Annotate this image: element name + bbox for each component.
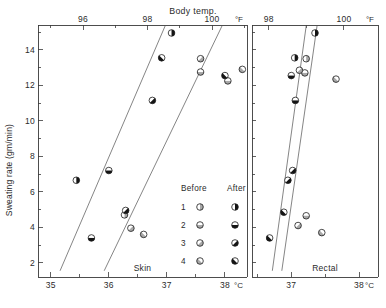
data-point-after-subject-2 [286,72,297,81]
marker-fill [286,76,297,81]
legend-swatch-before-4 [195,256,206,267]
y-ticklabel: 12 [25,80,35,90]
legend-subject-number: 2 [181,221,186,230]
data-point-after-subject-1 [312,28,321,39]
marker-fill [230,225,241,230]
data-point-after-subject-4 [264,233,275,244]
x-ticklabel-f: 96 [78,14,88,24]
marker-fill [104,171,115,176]
marker-fill [195,72,206,77]
data-point-before-subject-2 [195,69,206,78]
x-ticklabel-f: 100 [336,14,351,24]
regression-line-after [60,26,165,271]
regression-line-before [104,26,222,271]
data-point-before-subject-3 [126,223,137,234]
data-point-after-subject-2 [86,235,97,244]
panel-label-skin: Skin [134,263,152,273]
legend-subject-number: 1 [181,203,186,212]
x-ticklabel-c: 38 [220,280,230,290]
legend-swatch-after-4 [230,256,241,267]
data-point-after-subject-1 [291,53,300,64]
marker-fill [200,202,205,213]
data-point-before-subject-1 [303,53,312,64]
data-point-after-subject-3 [287,165,298,176]
panel-rectal: 98100°F3738°CRectal [252,14,378,290]
x-ticklabel-f: 98 [264,14,274,24]
marker-fill [306,53,311,64]
legend-subject-number: 3 [181,239,186,248]
x-unit-celsius: °C [234,281,243,290]
y-ticklabel: 2 [30,258,35,268]
panel-label-rectal: Rectal [312,263,338,273]
legend-row: 3 [181,238,240,249]
legend-row: 1 [181,202,240,213]
marker-fill [86,238,97,243]
panel-frame [38,25,247,277]
panel-skin: 9698100°F35363738°C2468101214Skin [25,14,248,290]
marker-fill [172,28,177,39]
legend: Before After 1234 [181,184,246,266]
y-axis-label: Sweating rate (gm/min) [4,124,14,216]
marker-fill [76,175,81,186]
data-point-after-subject-4 [156,53,167,64]
marker-fill [223,81,234,86]
data-point-after-subject-2 [104,167,115,176]
marker-fill [295,53,300,64]
y-ticklabel: 14 [25,45,35,55]
legend-after-header: After [227,184,246,193]
data-point-before-subject-3 [293,220,304,231]
data-point-after-subject-3 [147,95,158,106]
x-ticklabel-c: 36 [104,280,114,290]
legend-swatch-before-2 [195,222,206,231]
data-point-before-subject-4 [237,64,248,75]
data-point-before-subject-4 [138,229,149,240]
x-unit-celsius: °C [365,281,374,290]
legend-swatch-before-3 [195,238,206,249]
x-ticklabel-f: 100 [204,14,219,24]
x-ticklabel-c: 38 [354,280,364,290]
regression-line-after [272,26,306,271]
y-ticklabel: 10 [25,116,35,126]
legend-swatch-after-2 [230,222,241,231]
x-ticklabel-f: 98 [143,14,153,24]
data-point-before-subject-2 [301,212,312,221]
y-ticklabel: 6 [30,187,35,197]
data-point-after-subject-1 [73,175,82,186]
scatter-plot-svg: Body temp. Sweating rate (gm/min) 969810… [0,0,386,308]
marker-fill [300,73,311,78]
data-point-before-subject-4 [316,227,327,238]
marker-fill [235,202,240,213]
x-unit-fahrenheit: °F [235,15,243,24]
marker-fill [301,216,312,221]
x-ticklabel-c: 37 [286,280,296,290]
legend-subject-number: 4 [181,257,186,266]
data-point-after-subject-1 [168,28,177,39]
regression-line-before [282,26,317,271]
legend-row: 2 [181,221,240,230]
y-ticklabel: 4 [30,222,35,232]
marker-fill [195,225,206,230]
y-ticklabel: 8 [30,151,35,161]
legend-row: 4 [181,256,240,267]
legend-swatch-after-3 [230,238,241,249]
data-point-before-subject-4 [331,74,342,85]
x-ticklabel-c: 37 [162,280,172,290]
chart-figure: Body temp. Sweating rate (gm/min) 969810… [0,0,386,308]
legend-swatch-after-1 [232,202,241,213]
legend-swatch-before-1 [197,202,206,213]
legend-before-header: Before [181,184,207,193]
x-unit-fahrenheit: °F [366,15,374,24]
x-ticklabel-c: 35 [46,280,56,290]
